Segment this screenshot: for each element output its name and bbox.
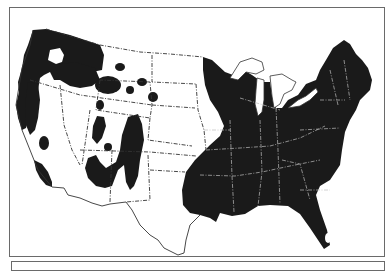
range-eastern (182, 40, 372, 249)
lake-okeechobee (325, 233, 331, 243)
lake-michigan (255, 78, 264, 116)
caption-box (11, 261, 385, 271)
